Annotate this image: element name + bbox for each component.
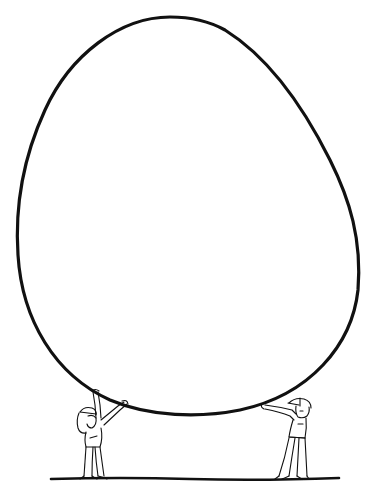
- ground-line: [51, 478, 339, 480]
- illustration-canvas: Line drawing of a giant egg held up by t…: [0, 0, 377, 495]
- right-figure: [261, 398, 311, 479]
- egg-outline: [17, 17, 358, 415]
